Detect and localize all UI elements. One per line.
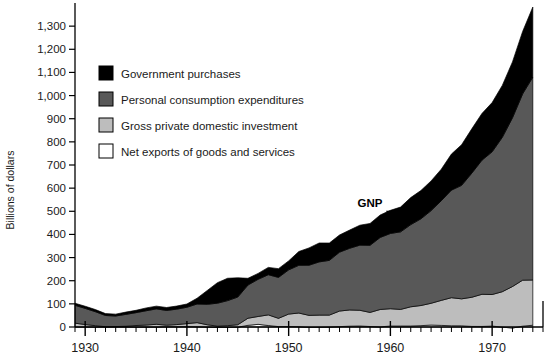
x-tick-label: 1930	[71, 341, 99, 355]
x-tick-label: 1970	[478, 341, 506, 355]
y-tick-label: 600	[47, 182, 66, 194]
x-tick-label: 1960	[376, 341, 404, 355]
y-tick-label: 1,300	[37, 20, 66, 32]
y-tick-label: 700	[47, 159, 66, 171]
y-axis-title: Billions of dollars	[4, 151, 16, 230]
y-tick-label: 1,200	[37, 43, 66, 55]
legend-label: Government purchases	[121, 68, 241, 80]
y-tick-label: 800	[47, 136, 66, 148]
legend-swatch	[99, 118, 113, 132]
legend-label: Gross private domestic investment	[121, 120, 298, 132]
y-tick-label: 100	[47, 298, 66, 310]
legend-swatch	[99, 144, 113, 158]
legend-label: Net exports of goods and services	[121, 146, 295, 158]
area-series-group	[75, 7, 533, 328]
y-tick-label: 300	[47, 252, 66, 264]
chart-annotations: GNP	[358, 197, 394, 218]
legend-label: Personal consumption expenditures	[121, 94, 304, 106]
y-tick-label: 900	[47, 113, 66, 125]
y-tick-label: 1,000	[37, 90, 66, 102]
chart-container: 01002003004005006007008009001,0001,1001,…	[0, 0, 550, 355]
legend-swatch	[99, 92, 113, 106]
y-tick-label: 0	[60, 321, 66, 333]
gnp-annotation-label: GNP	[358, 197, 383, 209]
y-tick-label: 400	[47, 228, 66, 240]
y-tick-label: 500	[47, 205, 66, 217]
y-tick-label: 1,100	[37, 66, 66, 78]
x-tick-label: 1940	[173, 341, 201, 355]
stacked-area-chart: 01002003004005006007008009001,0001,1001,…	[0, 0, 550, 355]
y-tick-labels-group: 01002003004005006007008009001,0001,1001,…	[37, 20, 75, 333]
x-tick-label: 1950	[275, 341, 303, 355]
area-series	[75, 77, 533, 327]
chart-legend: Government purchasesPersonal consumption…	[99, 66, 304, 158]
legend-swatch	[99, 66, 113, 80]
y-tick-label: 200	[47, 275, 66, 287]
